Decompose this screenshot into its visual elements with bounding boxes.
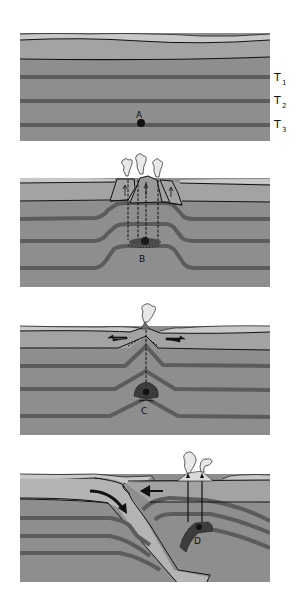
panel-2-hotspot-uplift: B bbox=[20, 176, 270, 287]
layer-t2-band bbox=[20, 99, 270, 103]
eruption-plumes-panel-2 bbox=[122, 154, 163, 177]
label-t2-sub: 2 bbox=[282, 102, 286, 110]
eruption-plume-icon bbox=[122, 159, 132, 177]
label-t3: T bbox=[273, 118, 281, 131]
label-t3-sub: 3 bbox=[282, 126, 286, 134]
eruption-plume-icon bbox=[184, 452, 196, 473]
label-t1-sub: 1 bbox=[282, 79, 286, 87]
point-c-label: C bbox=[141, 406, 147, 416]
layer-t1-band bbox=[20, 75, 270, 79]
magma-formation-diagram: A T 1 T 2 T 3 B bbox=[0, 0, 298, 608]
panel-4-subduction: D bbox=[20, 474, 270, 586]
point-a-label: A bbox=[136, 110, 143, 120]
point-d-label: D bbox=[194, 536, 201, 546]
eruption-plume-icon bbox=[153, 159, 163, 177]
panel-1-undisturbed-crust: A bbox=[20, 33, 270, 141]
point-b-label: B bbox=[139, 254, 145, 264]
magma-core bbox=[141, 237, 149, 245]
layer-t3-band bbox=[20, 123, 270, 127]
eruption-plume-icon bbox=[142, 304, 156, 322]
eruption-plume-icon bbox=[136, 154, 147, 174]
label-t2: T bbox=[273, 94, 281, 107]
eruption-plume-panel-3 bbox=[141, 304, 156, 329]
eruption-plume-icon bbox=[200, 459, 212, 472]
label-t1: T bbox=[273, 71, 281, 84]
time-labels: T 1 T 2 T 3 bbox=[273, 71, 286, 134]
magma-core bbox=[143, 389, 149, 395]
panel-3-rift: C bbox=[20, 326, 270, 435]
point-a-marker bbox=[137, 119, 145, 127]
volcanic-cone bbox=[141, 322, 150, 329]
magma-core bbox=[196, 524, 202, 530]
